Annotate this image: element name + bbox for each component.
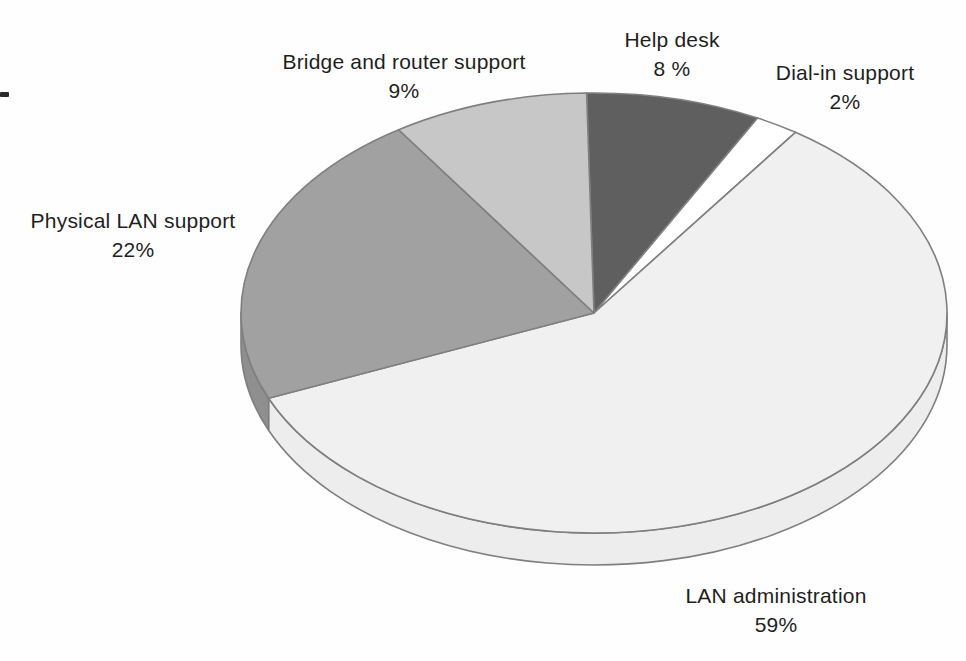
label-bridge-router-support: Bridge and router support 9% (282, 47, 525, 105)
slice-name: Dial-in support (776, 58, 914, 87)
slice-percent: 22% (31, 235, 236, 264)
slice-name: Bridge and router support (282, 47, 525, 76)
slice-percent: 9% (282, 76, 525, 105)
slice-percent: 2% (776, 87, 914, 116)
label-lan-administration: LAN administration 59% (685, 581, 866, 639)
pie-chart-figure: Help desk 8 % Dial-in support 2% LAN adm… (0, 0, 966, 661)
label-physical-lan-support: Physical LAN support 22% (31, 206, 236, 264)
label-help-desk: Help desk 8 % (624, 25, 719, 83)
scan-artifact-dash (0, 92, 9, 97)
slice-name: Physical LAN support (31, 206, 236, 235)
slice-name: Help desk (624, 25, 719, 54)
label-dial-in-support: Dial-in support 2% (776, 58, 914, 116)
slice-percent: 8 % (624, 54, 719, 83)
slice-percent: 59% (685, 610, 866, 639)
slice-name: LAN administration (685, 581, 866, 610)
